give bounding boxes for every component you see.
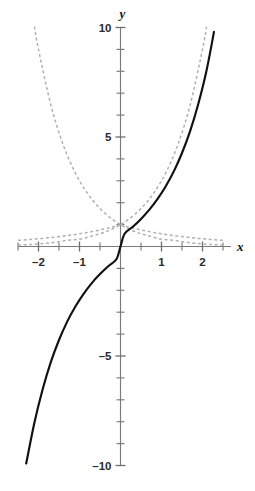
x-tick-label: 2: [199, 256, 205, 268]
y-axis-label: y: [118, 6, 126, 21]
x-tick-label: –2: [32, 256, 45, 268]
x-tick-label: 1: [158, 256, 165, 268]
function-plot: –2–112 –10–5510 x y: [0, 0, 255, 491]
x-tick-label: –1: [73, 256, 86, 268]
y-tick-label: –10: [92, 460, 111, 472]
y-tick-label: 10: [99, 22, 112, 34]
x-axis-label: x: [236, 239, 244, 254]
chart-figure: –2–112 –10–5510 x y: [0, 0, 255, 491]
y-tick-label: 5: [105, 131, 112, 143]
y-tick-label: –5: [99, 350, 112, 362]
